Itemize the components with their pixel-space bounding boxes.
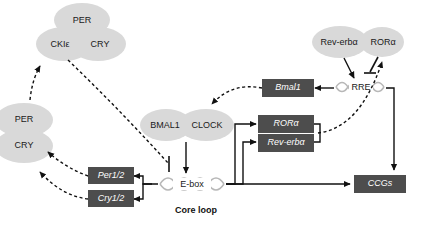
- arrow-ebox-to-rev-erba-gene: [226, 142, 256, 184]
- ckie-label: CKIε: [50, 39, 69, 49]
- arrow-rre-to-ccgs: [386, 88, 394, 170]
- bmal1-gene-label: Bmal1: [275, 82, 301, 92]
- gene-box-per12: Per1/2: [88, 167, 134, 184]
- cry-top-label: CRY: [91, 39, 110, 49]
- clock-protein-label: CLOCK: [191, 120, 222, 130]
- rev-erba-protein-label: Rev-erbα: [320, 37, 357, 47]
- dashed-bmal1-gene-to-protein: [212, 87, 262, 104]
- bmal1-clock-complex: BMAL1 CLOCK: [140, 109, 234, 141]
- ccgs-label: CCGs: [368, 178, 393, 188]
- rora-protein-label: RORα: [370, 37, 395, 47]
- rev-erba-gene-label: Rev-erbα: [267, 137, 305, 147]
- rre-label: RRE: [351, 82, 370, 92]
- arrow-ebox-to-rora-gene: [226, 124, 256, 184]
- gene-box-rora: RORα: [258, 115, 314, 133]
- rora-gene-label: RORα: [273, 118, 299, 128]
- arrow-ebox-to-cry12: [134, 184, 152, 199]
- per-left-label: PER: [15, 114, 34, 124]
- circadian-clock-diagram: PER CKIε CRY PER CRY BMAL1 CLOCK Rev-erb…: [0, 0, 422, 227]
- bmal1-protein-label: BMAL1: [150, 120, 180, 130]
- dashed-per-cry-to-nuclear-complex: [30, 66, 40, 100]
- core-loop-caption: Core loop: [175, 205, 218, 215]
- per12-label: Per1/2: [98, 170, 125, 180]
- e-box-element: E-box: [160, 178, 224, 190]
- diagram-canvas: PER CKIε CRY PER CRY BMAL1 CLOCK Rev-erb…: [0, 0, 422, 227]
- gene-box-bmal1: Bmal1: [262, 79, 314, 97]
- gene-box-ccgs: CCGs: [354, 175, 406, 193]
- per-ckie-cry-complex: PER CKIε CRY: [36, 3, 126, 61]
- rre-element: RRE: [336, 81, 384, 93]
- cry12-label: Cry1/2: [98, 193, 125, 203]
- per-cry-complex: PER CRY: [0, 103, 53, 163]
- dashed-cry12-to-cry-protein: [40, 172, 88, 199]
- rev-erba-rora-complex: Rev-erbα RORα: [312, 26, 404, 58]
- arrow-ebox-to-per12: [134, 176, 158, 184]
- per-top-label: PER: [73, 15, 92, 25]
- e-box-label: E-box: [180, 179, 204, 189]
- inhibition-rora-protein-to-rre: [364, 57, 378, 73]
- gene-box-rev-erba: Rev-erbα: [258, 134, 314, 152]
- dashed-per12-to-per-protein: [48, 152, 88, 176]
- cry-left-label: CRY: [15, 140, 34, 150]
- gene-box-cry12: Cry1/2: [88, 190, 134, 207]
- arrow-rev-erba-protein-to-rre: [344, 58, 354, 78]
